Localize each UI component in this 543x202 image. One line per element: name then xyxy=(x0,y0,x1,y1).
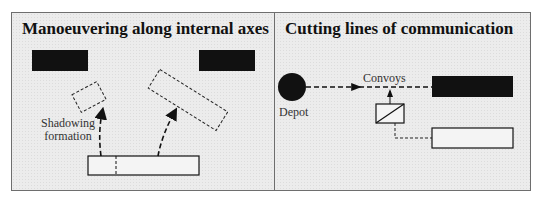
base-formation xyxy=(88,156,199,175)
manoeuvre-target-box xyxy=(148,69,228,130)
arrow-to-target xyxy=(158,113,174,156)
panel-lines-of-communication: Cutting lines of communication Convo xyxy=(275,13,530,190)
depot-icon xyxy=(278,73,306,101)
label-depot: Depot xyxy=(279,106,308,119)
shadowing-formation-box xyxy=(72,82,106,113)
arrow-to-shadowing xyxy=(100,113,102,156)
enemy-block xyxy=(432,76,513,97)
label-convoys: Convoys xyxy=(363,72,406,85)
internal-axes-drawing xyxy=(12,13,274,192)
enemy-block-right xyxy=(199,50,255,71)
support-link xyxy=(395,123,432,138)
diagram-frame: Manoeuvering along internal axes Shadowi… xyxy=(11,12,531,191)
panel-internal-axes: Manoeuvering along internal axes Shadowi… xyxy=(12,13,275,190)
enemy-block-left xyxy=(32,50,88,71)
communication-drawing xyxy=(275,13,530,192)
friendly-block xyxy=(432,128,513,148)
label-shadowing-formation: Shadowing formation xyxy=(38,117,98,143)
